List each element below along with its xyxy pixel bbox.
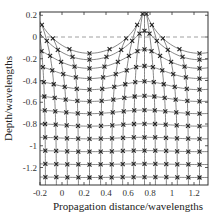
x-tick-label: 1 — [170, 188, 175, 198]
y-tick-label: -0.4 — [23, 76, 38, 86]
mesh-column-line — [134, 14, 143, 197]
x-marker-icon — [71, 55, 75, 59]
x-marker-icon — [108, 47, 112, 51]
mesh-column-line — [69, 49, 78, 197]
x-marker-icon — [177, 47, 181, 51]
x-marker-icon — [150, 23, 154, 27]
x-tick-label: 0.4 — [100, 188, 112, 198]
x-marker-icon — [181, 55, 185, 59]
x-marker-icon — [166, 48, 170, 52]
x-tick-label: 0 — [60, 188, 65, 198]
x-marker-icon — [67, 47, 71, 51]
mesh-row-line — [30, 10, 219, 54]
x-marker-icon — [56, 48, 60, 52]
mesh-row-line — [20, 81, 218, 89]
x-marker-icon — [135, 23, 139, 27]
wave-mesh-chart: -0.200.20.40.60.811.2 0.20-0.2-0.4-0.6-0… — [0, 0, 219, 218]
x-axis-label: Propagation distance/wavelengths — [53, 200, 203, 212]
x-tick-label: 0.6 — [122, 188, 134, 198]
mesh-column-line — [101, 49, 110, 197]
mesh-markers — [34, 8, 201, 180]
x-marker-icon — [104, 55, 108, 59]
mesh-column-line — [146, 14, 155, 197]
x-tick-label: 1.2 — [188, 188, 199, 198]
x-marker-icon — [143, 8, 147, 12]
y-axis-ticks: 0.20-0.2-0.4-0.6-0.8-1-1.2 — [23, 10, 208, 172]
x-tick-label: 0.2 — [78, 188, 89, 198]
y-tick-label: -1 — [30, 141, 38, 151]
y-tick-label: 0.2 — [26, 10, 37, 20]
x-marker-icon — [119, 48, 123, 52]
x-tick-label: 0.8 — [144, 188, 156, 198]
y-tick-label: -0.2 — [23, 54, 37, 64]
mesh-row-line — [18, 151, 216, 152]
y-tick-label: 0 — [33, 32, 38, 42]
y-tick-label: -1.2 — [23, 163, 37, 173]
x-tick-label: -0.2 — [33, 188, 47, 198]
y-axis-label: Depth/wavelengths — [2, 56, 14, 141]
x-axis-ticks: -0.200.20.40.60.811.2 — [33, 12, 200, 198]
y-tick-label: -0.8 — [23, 119, 38, 129]
y-tick-label: -0.6 — [23, 97, 38, 107]
mesh-lines — [18, 10, 219, 197]
mesh-row-line — [18, 164, 216, 165]
mesh-column-line — [179, 49, 188, 197]
mesh-column-line — [36, 14, 45, 197]
